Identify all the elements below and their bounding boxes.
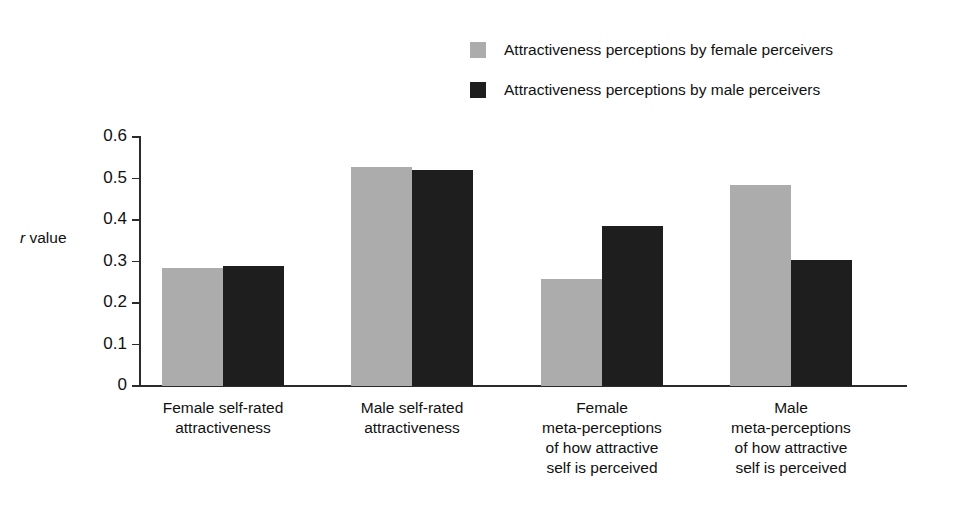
bars-layer [0,0,954,386]
x-category-label-line: of how attractive [502,438,702,458]
x-category-label: Female self-ratedattractiveness [123,398,323,438]
x-category-label-line: Female [502,398,702,418]
x-category-label: Malemeta-perceptionsof how attractivesel… [691,398,891,478]
x-category-label-line: self is perceived [502,458,702,478]
bar-chart: Attractiveness perceptions by female per… [0,0,954,528]
x-category-label-line: meta-perceptions [691,418,891,438]
bar [791,260,852,386]
x-category-label: Male self-ratedattractiveness [312,398,512,438]
x-category-label-line: Female self-rated [123,398,323,418]
plot-area: r value 0.60.50.40.30.20.10 Female self-… [0,0,954,528]
x-category-label-line: meta-perceptions [502,418,702,438]
bar [730,185,791,386]
x-category-label-line: of how attractive [691,438,891,458]
bar [162,268,223,386]
bar [412,170,473,386]
x-category-label-line: self is perceived [691,458,891,478]
bar [541,279,602,386]
bar [602,226,663,386]
bar [223,266,284,386]
x-category-label-line: attractiveness [312,418,512,438]
x-category-label-line: Male [691,398,891,418]
x-category-label-line: Male self-rated [312,398,512,418]
x-category-label-line: attractiveness [123,418,323,438]
x-category-label: Femalemeta-perceptionsof how attractives… [502,398,702,478]
bar [351,167,412,386]
